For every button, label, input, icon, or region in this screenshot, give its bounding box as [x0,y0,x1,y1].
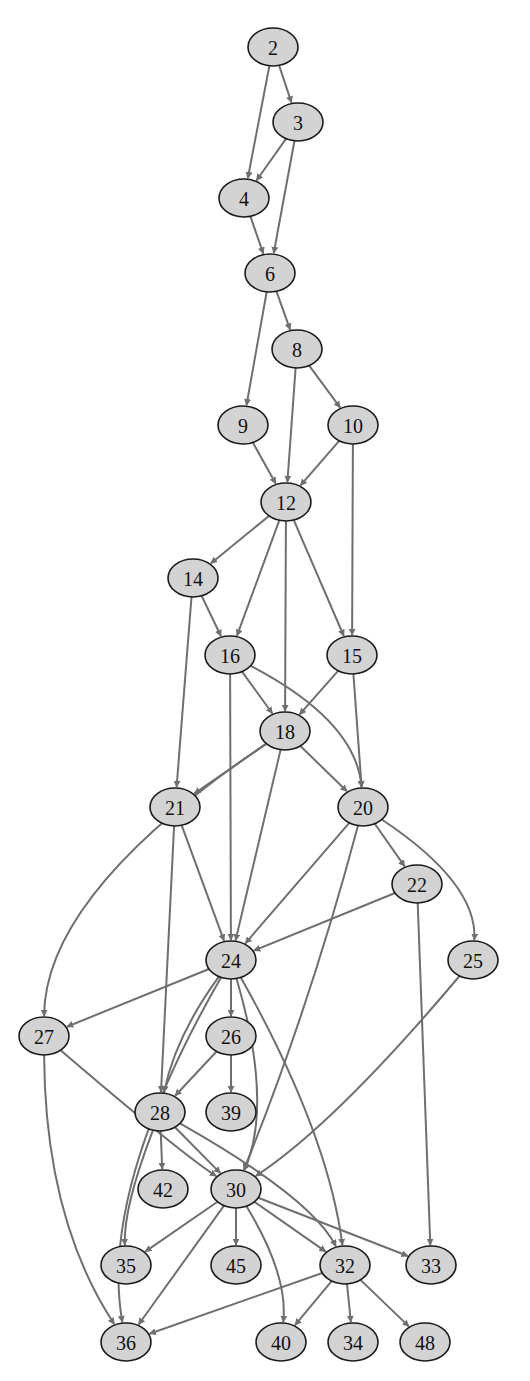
node-40[interactable]: 40 [256,1323,306,1361]
dependency-graph: 2346891012141615182120222425272628394230… [0,0,530,1381]
node-26[interactable]: 26 [206,1017,256,1055]
edge-14-to-16 [202,596,221,636]
node-25[interactable]: 25 [448,941,498,979]
node-label: 18 [275,721,295,743]
edge-27-to-36 [44,1055,114,1324]
node-label: 42 [153,1179,173,1201]
edge-32-to-34 [347,1284,351,1322]
node-label: 27 [34,1026,54,1048]
edge-24-to-27 [67,969,209,1027]
edge-32-to-40 [295,1281,332,1325]
node-45[interactable]: 45 [211,1246,261,1284]
node-label: 39 [221,1102,241,1124]
node-label: 14 [183,568,203,590]
edge-10-to-15 [352,444,353,635]
node-label: 48 [415,1332,435,1354]
node-28[interactable]: 28 [135,1093,185,1131]
node-27[interactable]: 27 [19,1017,69,1055]
edge-12-to-18 [285,521,286,711]
node-39[interactable]: 39 [206,1093,256,1131]
edge-2-to-4 [248,66,270,178]
node-label: 32 [335,1255,355,1277]
edge-3-to-4 [257,139,287,181]
node-8[interactable]: 8 [272,330,322,368]
edge-4-to-6 [250,216,263,253]
node-35[interactable]: 35 [101,1246,151,1284]
node-label: 24 [221,950,241,972]
node-label: 26 [221,1026,241,1048]
edge-22-to-33 [418,903,431,1245]
node-12[interactable]: 12 [261,483,311,521]
node-label: 9 [238,415,248,437]
edge-15-to-18 [300,671,339,715]
edge-30-to-33 [258,1198,408,1256]
node-4[interactable]: 4 [219,179,269,217]
edge-8-to-12 [287,368,295,482]
node-22[interactable]: 22 [392,865,442,903]
edge-20-to-22 [375,824,405,867]
node-label: 36 [116,1332,136,1354]
node-24[interactable]: 24 [206,941,256,979]
node-15[interactable]: 15 [327,636,377,674]
node-label: 40 [271,1332,291,1354]
node-label: 21 [165,797,185,819]
node-label: 8 [292,339,302,361]
node-label: 4 [239,188,249,210]
edge-20-to-30 [244,826,358,1170]
node-36[interactable]: 36 [101,1323,151,1361]
edge-3-to-6 [274,141,295,253]
node-34[interactable]: 34 [328,1323,378,1361]
edge-2-to-3 [279,65,291,102]
node-label: 45 [226,1255,246,1277]
node-label: 15 [342,645,362,667]
edge-14-to-21 [177,597,192,787]
edge-16-to-24 [230,674,231,940]
edge-8-to-10 [309,366,340,408]
edge-21-to-28 [161,826,174,1092]
edge-9-to-12 [253,443,276,484]
node-21[interactable]: 21 [150,788,200,826]
node-label: 20 [353,797,373,819]
node-16[interactable]: 16 [205,636,255,674]
node-label: 33 [421,1255,441,1277]
edge-12-to-14 [211,516,269,564]
node-label: 22 [407,874,427,896]
node-30[interactable]: 30 [211,1170,261,1208]
node-6[interactable]: 6 [245,254,295,292]
node-label: 10 [343,415,363,437]
node-label: 34 [343,1332,363,1354]
edge-28-to-42 [161,1131,163,1169]
node-label: 16 [220,645,240,667]
node-label: 12 [276,492,296,514]
edge-20-to-24 [245,823,349,943]
edge-10-to-12 [301,441,340,486]
node-label: 30 [226,1179,246,1201]
node-18[interactable]: 18 [260,712,310,750]
node-label: 2 [268,37,278,59]
node-14[interactable]: 14 [168,559,218,597]
node-label: 3 [293,112,303,134]
node-33[interactable]: 33 [406,1246,456,1284]
edge-24-to-30 [237,979,258,1171]
node-9[interactable]: 9 [218,406,268,444]
node-2[interactable]: 2 [248,28,298,66]
node-10[interactable]: 10 [328,406,378,444]
edge-26-to-28 [175,1052,216,1096]
edge-32-to-48 [361,1280,409,1327]
node-label: 35 [116,1255,136,1277]
node-20[interactable]: 20 [338,788,388,826]
edge-16-to-18 [242,672,272,714]
node-label: 25 [463,950,483,972]
node-48[interactable]: 48 [400,1323,450,1361]
edge-25-to-30 [256,976,460,1176]
node-label: 6 [265,263,275,285]
node-label: 28 [150,1102,170,1124]
node-42[interactable]: 42 [138,1170,188,1208]
edge-6-to-9 [247,292,267,405]
node-3[interactable]: 3 [273,103,323,141]
node-32[interactable]: 32 [320,1246,370,1284]
edge-30-to-35 [145,1202,217,1252]
edge-6-to-8 [277,291,291,329]
edge-18-to-20 [300,746,347,791]
edge-21-to-24 [182,825,224,940]
